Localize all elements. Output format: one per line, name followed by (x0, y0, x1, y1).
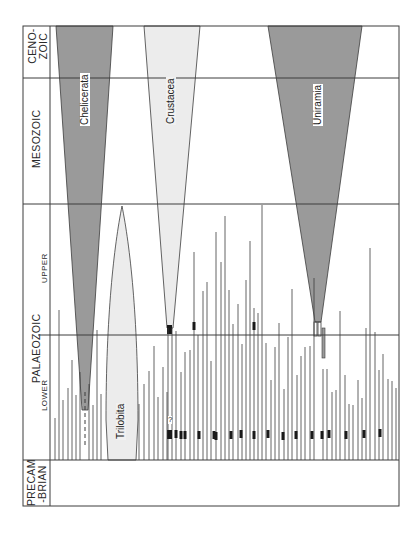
lineage-marker (180, 431, 183, 439)
era-label-precambrian-line2: -BRIAN (37, 462, 48, 506)
lineage-marker (253, 431, 256, 439)
uniramia-stub-1 (314, 322, 317, 336)
arthropod-phylogeny-diagram (0, 0, 418, 534)
chelicerata-stem-fill (82, 392, 84, 406)
crustacea-base-marker (167, 430, 172, 439)
lineage-marker (379, 429, 382, 437)
era-label-cenozoic: CENO- ZOIC (27, 28, 49, 64)
spindle-uniramia (268, 26, 362, 322)
lineage-marker (267, 430, 270, 438)
lineage-marker (215, 432, 218, 440)
lineage-marker (282, 432, 285, 440)
lineage-marker (184, 431, 187, 439)
sub-label-lower: LOWER (41, 380, 49, 411)
lineage-marker (253, 322, 256, 330)
lineage-marker (198, 431, 201, 439)
taxon-label-uniramia: Uniramia (313, 84, 323, 126)
taxon-label-trilobita: Trilobita (116, 403, 126, 440)
taxon-label-chelicerata: Chelicerata (80, 73, 90, 126)
era-label-precambrian: PRECAM -BRIAN (26, 462, 48, 506)
uniramia-stub-3 (322, 328, 325, 358)
lineage-marker (311, 431, 314, 439)
uniramia-stub-2 (318, 322, 321, 336)
lineage-marker (328, 430, 331, 438)
lineage-marker (345, 431, 348, 439)
lineage-marker (295, 431, 298, 439)
era-label-mesozoic: MESOZOIC (31, 110, 42, 168)
taxon-label-crustacea: Crustacea (166, 77, 176, 125)
lineage-marker (193, 322, 196, 330)
era-label-cenozoic-line2: ZOIC (38, 28, 49, 64)
lineage-marker (363, 430, 366, 438)
sub-label-upper: UPPER (41, 253, 49, 283)
lineage-marker (175, 430, 178, 438)
lineage-marker (240, 430, 243, 438)
spindle-crustacea (144, 26, 200, 328)
crustacea-uncertain-origin-mark: ? (168, 416, 172, 424)
era-label-palaeozoic: PALAEOZOIC (31, 314, 42, 383)
lineage-marker (321, 431, 324, 439)
lineage-marker (230, 431, 233, 439)
